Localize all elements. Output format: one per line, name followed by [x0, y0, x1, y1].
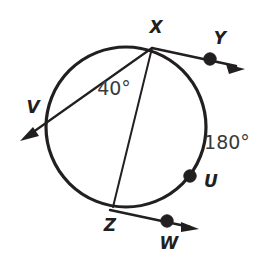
angle-measure-40: 40°	[97, 77, 131, 99]
point-label-z: Z	[103, 215, 117, 235]
point-label-u: U	[204, 171, 218, 191]
geometry-canvas: X Y V U Z W 40° 180°	[0, 0, 277, 260]
circle-outline	[46, 47, 206, 207]
ray-z-to-w	[110, 210, 190, 227]
point-label-w: W	[160, 233, 180, 253]
arrowhead-w-icon	[181, 222, 199, 232]
point-dot-y	[204, 53, 216, 65]
point-label-y: Y	[214, 28, 228, 48]
point-dot-w	[161, 215, 173, 227]
point-label-x: X	[148, 17, 163, 37]
point-dot-u	[184, 170, 196, 182]
geometry-figure: X Y V U Z W 40° 180°	[0, 0, 277, 260]
point-label-v: V	[26, 97, 41, 117]
arc-measure-180: 180°	[204, 131, 250, 153]
